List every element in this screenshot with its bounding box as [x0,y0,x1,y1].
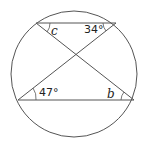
angle-arc-47 [33,88,36,100]
angle-arc-c [47,23,50,32]
label-47: 47° [39,86,59,99]
label-b: b [107,87,115,101]
label-c: c [51,24,58,38]
angle-arc-b [121,92,124,100]
circle-geometry-diagram: c 34° 47° b [0,0,148,146]
circle [11,11,137,137]
label-34: 34° [84,23,104,36]
diagram-canvas: c 34° 47° b [0,0,148,146]
